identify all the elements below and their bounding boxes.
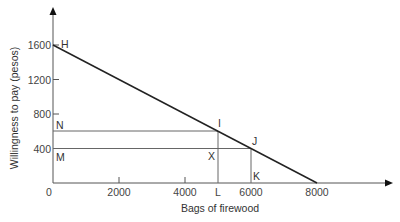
point-label-H: H [61,38,69,50]
point-label-N: N [56,119,64,131]
x-tick-label-2000: 2000 [107,186,131,198]
y-tick-label-1200: 1200 [28,74,52,86]
x-axis-title: Bags of firewood [181,202,259,214]
y-tick-label-400: 400 [33,143,51,155]
y-tick-label-1600: 1600 [28,39,52,51]
point-label-J: J [252,135,257,147]
point-label-K: K [253,170,260,182]
x-tick-label-4000: 4000 [173,186,197,198]
y-axis-title: Willingness to pay (pesos) [8,47,20,170]
point-label-M: M [56,151,65,163]
x-axis-arrow-icon [385,180,393,187]
demand-chart: 1600 1200 800 400 0 2000 4000 L 6000 800… [0,0,400,222]
y-axis-arrow-icon [50,7,57,15]
x-tick-label-L: L [215,186,221,198]
point-label-X: X [208,150,215,162]
demand-curve [53,45,317,183]
x-tick-label-8000: 8000 [305,186,329,198]
x-tick-label-6000: 6000 [239,186,263,198]
origin-label: 0 [46,186,52,198]
y-tick-label-800: 800 [33,108,51,120]
point-label-I: I [218,117,221,129]
